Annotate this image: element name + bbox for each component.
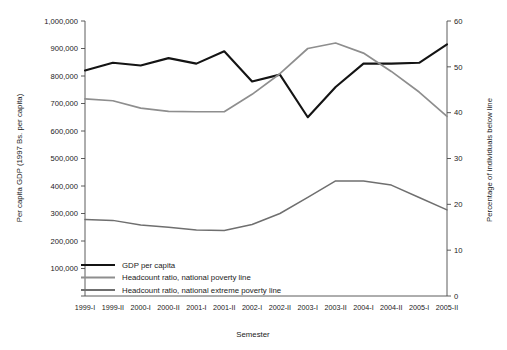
x-tick-label: 2005-I <box>409 303 429 312</box>
y-tick-label-left: 900,000 <box>51 44 78 53</box>
y-tick-label-left: 1,000,000 <box>44 17 78 26</box>
y-tick-label-right: 30 <box>454 154 462 163</box>
y-tick-label-right: 10 <box>454 246 462 255</box>
x-tick-label: 2000-I <box>130 303 150 312</box>
line-chart-canvas: 100,000200,000300,000400,000500,000600,0… <box>0 0 507 350</box>
x-axis: 1999-I1999-II2000-I2000-II2001-I2001-II2… <box>75 296 458 339</box>
y-axis-left: 100,000200,000300,000400,000500,000600,0… <box>15 17 85 296</box>
x-tick-label: 2005-II <box>436 303 458 312</box>
x-tick-label: 2000-II <box>157 303 179 312</box>
x-tick-label: 2001-II <box>213 303 235 312</box>
y-tick-label-right: 0 <box>454 292 458 301</box>
legend-label-2: Headcount ratio, national poverty line <box>122 273 251 282</box>
x-axis-tick-labels: 1999-I1999-II2000-I2000-II2001-I2001-II2… <box>75 303 458 312</box>
x-tick-label: 2003-II <box>324 303 346 312</box>
y-tick-label-left: 500,000 <box>51 154 78 163</box>
x-axis-title: Semester <box>236 330 270 339</box>
series-line-2 <box>85 43 447 116</box>
y-axis-right-ticks: 0102030405060 <box>447 17 462 301</box>
y-tick-label-left: 600,000 <box>51 127 78 136</box>
y-axis-left-ticks: 100,000200,000300,000400,000500,000600,0… <box>44 17 85 296</box>
y-axis-right: 0102030405060 Percentage of individuals … <box>447 17 494 301</box>
x-tick-label: 1999-I <box>75 303 95 312</box>
series-line-3 <box>85 181 447 231</box>
x-tick-label: 2002-II <box>269 303 291 312</box>
legend-label-3: Headcount ratio, national extreme povert… <box>122 286 281 295</box>
y-tick-label-right: 50 <box>454 63 462 72</box>
x-tick-label: 1999-II <box>102 303 124 312</box>
x-tick-label: 2001-I <box>186 303 206 312</box>
y-tick-label-left: 400,000 <box>51 182 78 191</box>
x-tick-label: 2004-II <box>380 303 402 312</box>
y-tick-label-right: 20 <box>454 200 462 209</box>
y-tick-label-left: 200,000 <box>51 237 78 246</box>
y-tick-label-right: 60 <box>454 17 462 26</box>
chart-figure: 100,000200,000300,000400,000500,000600,0… <box>0 0 507 350</box>
y-tick-label-left: 800,000 <box>51 72 78 81</box>
series-line-1 <box>85 44 447 117</box>
y-tick-label-left: 300,000 <box>51 209 78 218</box>
x-tick-label: 2004-I <box>353 303 373 312</box>
x-tick-label: 2003-I <box>298 303 318 312</box>
x-tick-label: 2002-I <box>242 303 262 312</box>
legend-label-1: GDP per capita <box>122 261 176 270</box>
chart-legend: GDP per capitaHeadcount ratio, national … <box>81 261 281 295</box>
y-tick-label-left: 700,000 <box>51 99 78 108</box>
y-tick-label-right: 40 <box>454 108 462 117</box>
y-axis-right-title: Percentage of individuals below line <box>485 98 494 222</box>
y-tick-label-left: 100,000 <box>51 264 78 273</box>
y-axis-left-title: Per capita GDP (1997 Bs. per capita) <box>15 93 24 222</box>
data-series-layer <box>85 43 447 230</box>
